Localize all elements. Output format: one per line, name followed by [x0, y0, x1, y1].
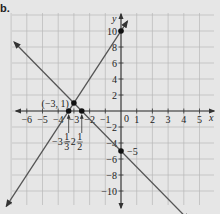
y-axis-label: y: [111, 13, 117, 24]
x-intercept-half-den: 2: [77, 141, 82, 152]
x-tick-label: −5: [37, 114, 48, 125]
data-point: [118, 148, 124, 154]
y-tick-label: −4: [106, 138, 117, 149]
y-tick-label: −6: [106, 154, 117, 165]
x-tick-label: 1: [134, 114, 139, 125]
data-point: [66, 108, 72, 114]
x-axis-label: x: [208, 112, 214, 123]
y-tick-label: −10: [101, 186, 117, 197]
origin-label: 0: [124, 113, 129, 124]
x-tick-label: 2: [150, 114, 155, 125]
y-tick-label: 10: [107, 26, 117, 37]
x-intercept-third-whole: −3: [52, 136, 63, 147]
intersection-label: (−3, 1): [42, 98, 69, 110]
x-tick-label: 5: [197, 114, 202, 125]
x-tick-label: −6: [21, 114, 32, 125]
data-point: [118, 28, 124, 34]
y-tick-label: −2: [106, 122, 117, 133]
y-tick-label: 2: [112, 90, 117, 101]
data-point: [79, 108, 85, 114]
x-tick-label: 3: [166, 114, 171, 125]
x-tick-label: 4: [181, 114, 186, 125]
y-tick-label: 6: [112, 58, 117, 69]
data-point: [71, 100, 77, 106]
y-intercept-label: −5: [127, 146, 138, 157]
y-tick-label: −8: [106, 170, 117, 181]
x-intercept-half-whole: −2: [65, 136, 76, 147]
x-tick-label: −4: [53, 114, 64, 125]
y-tick-label: 4: [112, 74, 117, 85]
coordinate-plane-chart: xy−6−5−4−3−2−112345108642−2−4−6−8−100(−3…: [0, 0, 220, 214]
x-tick-label: −3: [69, 114, 80, 125]
